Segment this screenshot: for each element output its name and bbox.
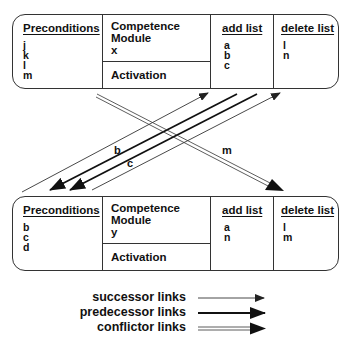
legend-conflictor-label: conflictor links [97,320,186,334]
link-label-m: m [222,144,232,156]
successor-link [92,93,280,190]
successor-link [22,93,208,192]
legend-successor-label: successor links [92,290,186,304]
legend-predecessor-label: predecessor links [80,305,186,319]
link-label-c: c [127,157,133,169]
predecessor-link-b [50,94,237,190]
conflictor-link-m [96,94,284,191]
link-label-b: b [114,144,121,156]
legend-conflictor-arrow [198,323,266,335]
predecessor-link-c [70,94,257,190]
